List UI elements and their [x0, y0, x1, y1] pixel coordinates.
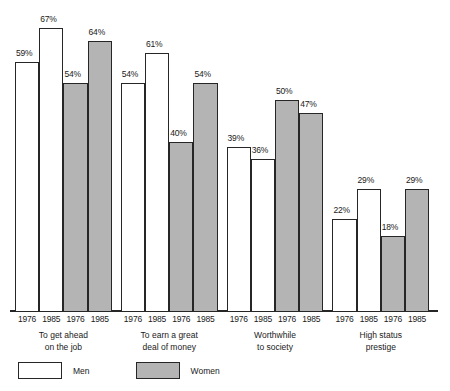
bar-value-label: 59% [16, 49, 32, 58]
legend-item-women: Women [136, 362, 220, 379]
chart-legend: Men Women [18, 362, 220, 379]
tick-label-1976: 1976 [169, 314, 193, 324]
group-label-line: to society [227, 342, 324, 354]
legend-item-men: Men [18, 362, 90, 379]
bar-0-men-1985 [39, 28, 63, 312]
bar-value-label: 36% [252, 146, 268, 155]
bar-value-label: 67% [40, 15, 56, 24]
bar-value-label: 54% [122, 70, 138, 79]
bar-2-women-1976 [275, 100, 299, 312]
group-label-line: Worthwhile [227, 330, 324, 342]
bar-value-label: 39% [228, 134, 244, 143]
tick-label-1976: 1976 [63, 314, 87, 324]
tick-label-1976: 1976 [15, 314, 39, 324]
group-label-line: on the job [15, 342, 112, 354]
legend-label-women: Women [191, 366, 220, 376]
bar-1-men-1985 [145, 53, 169, 312]
group-label-0: To get aheadon the job [15, 330, 112, 353]
bar-1-women-1976 [169, 142, 193, 312]
tick-label-1985: 1985 [145, 314, 169, 324]
legend-swatch-women-icon [136, 362, 180, 379]
tick-label-1985: 1985 [299, 314, 323, 324]
tick-label-1985: 1985 [405, 314, 429, 324]
group-label-line: deal of money [121, 342, 218, 354]
bar-2-women-1985 [299, 113, 323, 312]
bar-value-label: 47% [300, 100, 316, 109]
bar-3-women-1985 [405, 189, 429, 312]
tick-label-1976: 1976 [332, 314, 356, 324]
bar-chart: 59%67%54%64%54%61%40%54%39%36%50%47%22%2… [0, 0, 450, 391]
group-label-2: Worthwhileto society [227, 330, 324, 353]
bar-value-label: 54% [194, 70, 210, 79]
group-label-3: High statusprestige [332, 330, 429, 353]
bar-value-label: 54% [64, 70, 80, 79]
bar-3-women-1976 [381, 236, 405, 312]
tick-label-1976: 1976 [381, 314, 405, 324]
tick-label-1985: 1985 [357, 314, 381, 324]
bar-value-label: 22% [333, 206, 349, 215]
group-label-line: To earn a great [121, 330, 218, 342]
bar-0-women-1985 [88, 41, 112, 312]
bar-value-label: 29% [358, 176, 374, 185]
bar-2-men-1985 [251, 159, 275, 312]
tick-label-1985: 1985 [251, 314, 275, 324]
group-label-line: prestige [332, 342, 429, 354]
tick-label-1976: 1976 [275, 314, 299, 324]
tick-label-1985: 1985 [193, 314, 217, 324]
bar-0-women-1976 [63, 83, 87, 312]
bar-0-men-1976 [15, 62, 39, 312]
tick-label-1976: 1976 [227, 314, 251, 324]
bar-value-label: 64% [89, 28, 105, 37]
tick-label-1985: 1985 [88, 314, 112, 324]
bar-value-label: 40% [170, 129, 186, 138]
bar-value-label: 61% [146, 40, 162, 49]
bar-3-men-1976 [332, 219, 356, 312]
plot-area: 59%67%54%64%54%61%40%54%39%36%50%47%22%2… [0, 0, 450, 312]
group-label-line: To get ahead [15, 330, 112, 342]
legend-label-men: Men [73, 366, 90, 376]
bar-3-men-1985 [357, 189, 381, 312]
bar-value-label: 29% [406, 176, 422, 185]
legend-swatch-men-icon [18, 362, 62, 379]
tick-label-1985: 1985 [39, 314, 63, 324]
bar-1-men-1976 [121, 83, 145, 312]
group-label-1: To earn a greatdeal of money [121, 330, 218, 353]
group-label-line: High status [332, 330, 429, 342]
bar-value-label: 50% [276, 87, 292, 96]
bar-2-men-1976 [227, 147, 251, 312]
bar-1-women-1985 [193, 83, 217, 312]
tick-label-1976: 1976 [121, 314, 145, 324]
bar-value-label: 18% [382, 223, 398, 232]
